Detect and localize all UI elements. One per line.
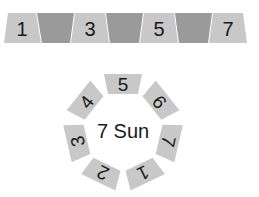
diagram-canvas: 1 3 5 7 5 6 7 1 2 3 4	[0, 0, 259, 197]
strip-cell-6	[175, 13, 212, 43]
strip-label-3: 3	[84, 18, 95, 40]
heptagon-ring: 5 6 7 1 2 3 4 7 Sun	[63, 74, 183, 191]
strip-cell-2	[37, 13, 74, 43]
strip-label-7: 7	[222, 18, 233, 40]
ring-tile-6: 6	[139, 81, 179, 124]
center-label: 7 Sun	[97, 120, 149, 142]
ring-tile-2: 2	[81, 155, 124, 190]
ring-tile-7: 7	[154, 121, 183, 163]
strip-label-1: 1	[16, 18, 27, 40]
ring-tile-5: 5	[104, 74, 142, 95]
ring-tile-1: 1	[121, 155, 164, 190]
strip-cell-4	[106, 13, 143, 43]
ring-tile-4: 4	[67, 81, 107, 124]
strip-label-5: 5	[153, 18, 164, 40]
ring-tile-3: 3	[63, 121, 92, 163]
number-strip: 1 3 5 7	[4, 13, 247, 43]
ring-label-5: 5	[118, 74, 129, 95]
